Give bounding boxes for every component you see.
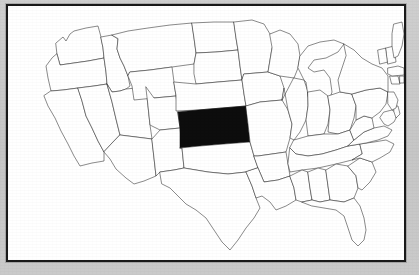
state-mo: Missouri bbox=[246, 100, 292, 156]
map-canvas: WashingtonOregonCaliforniaNevadaIdahoUta… bbox=[8, 6, 404, 260]
united-states-map: WashingtonOregonCaliforniaNevadaIdahoUta… bbox=[8, 6, 404, 260]
figure-root: WashingtonOregonCaliforniaNevadaIdahoUta… bbox=[0, 0, 419, 275]
map-frame-border: WashingtonOregonCaliforniaNevadaIdahoUta… bbox=[6, 4, 406, 262]
state-ct: Connecticut bbox=[390, 76, 400, 84]
state-ne: Nebraska bbox=[174, 80, 246, 111]
state-sd: South Dakota bbox=[194, 50, 242, 84]
state-ma: Massachusetts bbox=[388, 66, 404, 76]
state-ri: Rhode Island bbox=[400, 76, 404, 83]
state-ks-highlighted: Kansas bbox=[178, 106, 250, 148]
state-nd: North Dakota bbox=[192, 22, 238, 53]
